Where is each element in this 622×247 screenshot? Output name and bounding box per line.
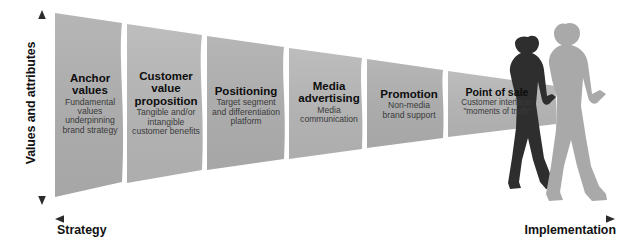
segment-label-media-advertising: Media advertising Media communication bbox=[291, 80, 367, 124]
vertical-axis-label: Values and attributes bbox=[24, 3, 38, 203]
segment-subtitle: Tangible and/or intangible customer bene… bbox=[127, 108, 205, 136]
horizontal-axis-label-left: Strategy bbox=[57, 223, 107, 237]
segment-label-anchor-values: Anchor values Fundamental values underpi… bbox=[56, 72, 124, 135]
segment-subtitle: Media communication bbox=[291, 106, 367, 125]
horizontal-axis-label-right: Implementation bbox=[524, 223, 616, 237]
segment-subtitle: Customer interface: "moments of truth" bbox=[449, 99, 545, 117]
segment-title: Media advertising bbox=[291, 80, 367, 105]
segment-subtitle: Fundamental values underpinning brand st… bbox=[56, 98, 124, 135]
segment-title: Positioning bbox=[203, 85, 289, 97]
funnel-diagram: Anchor values Fundamental values underpi… bbox=[0, 0, 622, 247]
segment-label-customer-value-proposition: Customer value proposition Tangible and/… bbox=[127, 70, 205, 136]
segment-label-promotion: Promotion Non-media brand support bbox=[367, 88, 451, 120]
segment-label-point-of-sale: Point of sale Customer interface: "momen… bbox=[449, 87, 545, 117]
segment-title: Customer value proposition bbox=[127, 70, 205, 107]
segment-title: Promotion bbox=[367, 88, 451, 100]
segment-label-positioning: Positioning Target segment and different… bbox=[203, 85, 289, 126]
segment-subtitle: Non-media brand support bbox=[367, 101, 451, 120]
segment-title: Point of sale bbox=[449, 87, 545, 98]
horizontal-axis-arrow bbox=[55, 215, 615, 222]
segment-title: Anchor values bbox=[56, 72, 124, 97]
segment-subtitle: Target segment and differentiation platf… bbox=[203, 98, 289, 126]
vertical-axis-arrow bbox=[38, 10, 46, 205]
